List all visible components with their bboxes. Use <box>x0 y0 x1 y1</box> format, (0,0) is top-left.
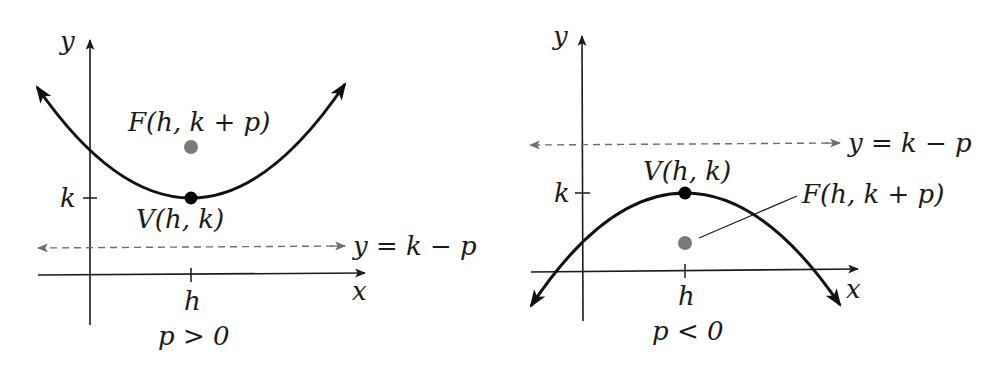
y-axis-label: y <box>59 26 75 56</box>
parabola-curve <box>531 193 685 306</box>
y-axis <box>582 36 583 321</box>
focus-leader-line <box>699 196 797 238</box>
focus-point <box>678 236 692 250</box>
directrix-line <box>530 143 840 145</box>
vertex-label: V(h, k) <box>643 156 731 186</box>
parabola-curve <box>37 87 191 198</box>
x-axis-label: x <box>352 276 367 306</box>
x-axis-label: x <box>846 274 861 304</box>
vertex-point <box>679 187 692 200</box>
focus-label: F(h, k + p) <box>127 107 270 137</box>
h-tick-label: h <box>184 286 201 316</box>
x-axis <box>38 273 365 275</box>
k-tick-label: k <box>554 178 570 208</box>
vertex-label: V(h, k) <box>136 204 224 234</box>
vertex-point <box>185 192 198 205</box>
parabola-curve <box>685 193 840 305</box>
diagram-right: y x h k y = k − p F(h, k + p) V(h, k) p … <box>530 21 972 346</box>
caption: p > 0 <box>158 321 230 351</box>
focus-label: F(h, k + p) <box>801 179 944 209</box>
directrix-label: y = k − p <box>352 231 477 261</box>
diagram-left: y x h k y = k − p F(h, k + p) V(h, k) p … <box>37 26 477 351</box>
directrix-line <box>38 246 345 248</box>
directrix-label: y = k − p <box>847 128 972 158</box>
parabola-curve <box>191 84 345 198</box>
caption: p < 0 <box>652 316 724 346</box>
parabola-diagrams: y x h k y = k − p F(h, k + p) V(h, k) p … <box>0 0 1003 367</box>
y-axis-label: y <box>552 21 568 51</box>
focus-point <box>184 140 198 154</box>
h-tick-label: h <box>678 281 695 311</box>
x-axis <box>531 269 858 272</box>
k-tick-label: k <box>60 183 76 213</box>
